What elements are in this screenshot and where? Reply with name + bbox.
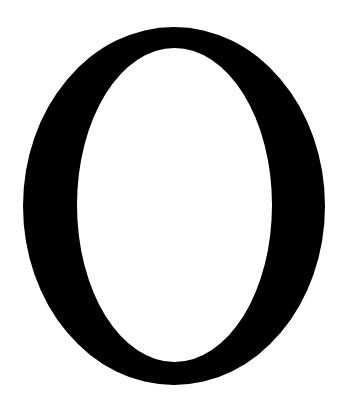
letter-o-shape [23, 27, 325, 385]
letter-o-glyph [0, 0, 347, 405]
